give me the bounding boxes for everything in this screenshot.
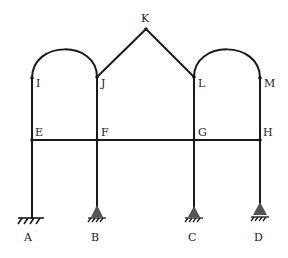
pinned-support-icon xyxy=(88,205,106,222)
pinned-support-icon xyxy=(185,206,203,222)
pinned-support-icon xyxy=(251,202,269,221)
joint-K xyxy=(144,27,148,31)
node-label-c: C xyxy=(188,232,196,243)
node-label-a: A xyxy=(24,232,32,243)
joint-J xyxy=(95,75,99,79)
arch-I-J xyxy=(32,49,97,78)
member-J-K xyxy=(97,29,146,77)
node-label-b: B xyxy=(91,232,99,243)
node-label-l: L xyxy=(198,78,205,89)
structural-frame-diagram xyxy=(0,0,288,258)
node-label-h: H xyxy=(263,127,273,138)
node-label-f: F xyxy=(101,127,109,138)
node-label-i: I xyxy=(36,78,40,89)
joint-M xyxy=(258,76,262,80)
joint-H xyxy=(258,138,262,142)
member-K-L xyxy=(146,29,194,77)
joint-F xyxy=(95,138,99,142)
joint-G xyxy=(192,138,196,142)
arch-L-M xyxy=(194,49,260,78)
joint-E xyxy=(30,138,34,142)
fixed-support-icon xyxy=(18,218,44,224)
node-label-j: J xyxy=(101,78,105,89)
joint-I xyxy=(30,76,34,80)
node-label-e: E xyxy=(35,127,43,138)
node-label-d: D xyxy=(254,232,263,243)
node-label-g: G xyxy=(198,127,207,138)
joint-L xyxy=(192,75,196,79)
node-label-m: M xyxy=(264,78,275,89)
node-label-k: K xyxy=(141,13,149,24)
